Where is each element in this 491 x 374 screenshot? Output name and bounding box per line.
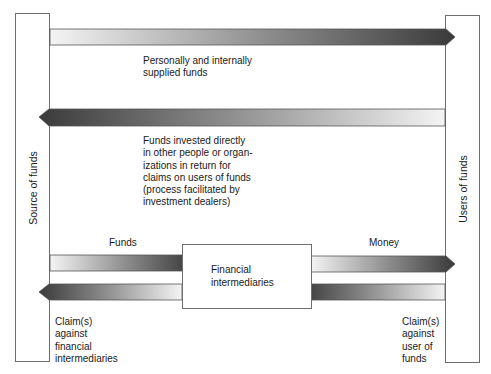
money-label: Money <box>369 237 399 249</box>
personal-funds-label: Personally and internally supplied funds <box>143 55 252 80</box>
financial-intermediaries-box: Financial intermediaries <box>182 244 312 309</box>
claims-user-label: Claim(s) against user of funds <box>402 316 439 365</box>
arrow-personal-funds-icon <box>50 29 455 45</box>
arrow-claims-fi-icon <box>39 284 182 300</box>
arrow-money-icon <box>311 256 455 272</box>
claims-fi-label: Claim(s) against financial intermediarie… <box>55 316 118 365</box>
arrow-claims-user-icon <box>302 284 445 300</box>
arrow-direct-investment-icon <box>39 109 445 126</box>
funds-label: Funds <box>109 237 137 249</box>
direct-investment-label: Funds invested directly in other people … <box>143 135 253 209</box>
arrow-funds-icon <box>50 255 192 271</box>
financial-intermediaries-label: Financial intermediaries <box>211 264 274 289</box>
